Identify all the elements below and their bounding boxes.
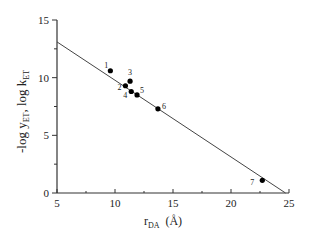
regression-line	[57, 42, 286, 193]
data-points: 1234567	[104, 61, 265, 188]
data-point	[155, 106, 160, 111]
axis-labels: rDA(Å)-log yET, log kET	[14, 70, 182, 230]
x-axis-label: rDA(Å)	[144, 214, 182, 230]
fit-line	[57, 42, 286, 193]
x-tick-label: 20	[226, 197, 238, 209]
point-label: 5	[140, 86, 144, 95]
point-label: 6	[162, 102, 166, 111]
data-point	[127, 79, 132, 84]
point-label: 1	[104, 61, 108, 70]
x-tick-label: 5	[54, 197, 60, 209]
x-tick-label: 25	[284, 197, 296, 209]
data-point	[108, 68, 113, 73]
x-tick-label: 15	[168, 197, 180, 209]
scatter-chart: 510152025051015 1234567 rDA(Å)-log yET, …	[0, 0, 309, 246]
data-point	[134, 92, 139, 97]
y-axis-label: -log yET, log kET	[14, 70, 31, 153]
x-tick-label: 10	[110, 197, 122, 209]
point-label: 4	[123, 91, 127, 100]
y-tick-label: 5	[44, 129, 50, 141]
y-tick-label: 10	[38, 72, 50, 84]
axes	[57, 20, 289, 193]
data-point	[123, 83, 128, 88]
data-point	[260, 178, 265, 183]
point-label: 3	[128, 68, 132, 77]
data-point	[129, 89, 134, 94]
point-label: 2	[117, 83, 121, 92]
y-tick-label: 0	[44, 187, 50, 199]
point-label: 7	[250, 178, 254, 187]
axis-ticks: 510152025051015	[38, 14, 295, 209]
y-tick-label: 15	[38, 14, 50, 26]
